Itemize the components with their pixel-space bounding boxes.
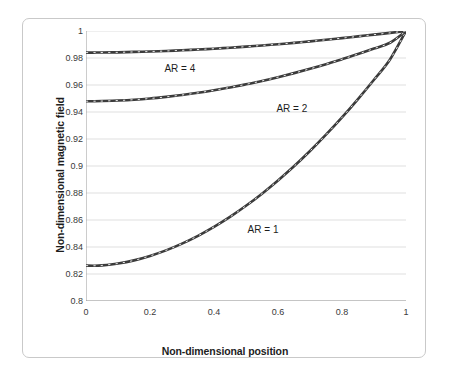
y-axis-tick-labels: 0.80.820.840.860.880.90.920.940.960.981: [45, 31, 83, 301]
chart-frame: Non-dimensional magnetic field 0.80.820.…: [22, 18, 426, 358]
series-line-dash: [86, 31, 406, 53]
y-tick-label: 0.84: [49, 242, 83, 252]
y-tick-label: 0.92: [49, 134, 83, 144]
series-lines: [86, 31, 406, 266]
series-line-base: [86, 31, 406, 101]
y-tick-label: 0.8: [49, 296, 83, 306]
series-annotation: AR = 4: [164, 63, 195, 74]
y-tick-label: 0.96: [49, 80, 83, 90]
x-tick-label: 0.2: [135, 307, 165, 317]
x-axis-title: Non-dimensional position: [23, 345, 427, 357]
y-tick-label: 0.94: [49, 107, 83, 117]
series-line-dash: [86, 31, 406, 266]
series-line-base: [86, 31, 406, 266]
series-annotation: AR = 2: [276, 103, 307, 114]
chart-figure: Non-dimensional magnetic field 0.80.820.…: [0, 0, 450, 374]
y-tick-label: 0.98: [49, 53, 83, 63]
y-tick-label: 0.82: [49, 269, 83, 279]
y-tick-label: 0.9: [49, 161, 83, 171]
x-tick-label: 0: [71, 307, 101, 317]
x-tick-label: 0.6: [263, 307, 293, 317]
y-tick-label: 1: [49, 26, 83, 36]
series-line-dash: [86, 31, 406, 101]
plot-svg: [86, 31, 406, 301]
series-line-base: [86, 31, 406, 53]
x-tick-label: 1: [391, 307, 421, 317]
plot-area: AR = 4AR = 2AR = 1: [86, 31, 406, 301]
x-axis-tick-labels: 00.20.40.60.81: [86, 307, 406, 323]
x-tick-label: 0.4: [199, 307, 229, 317]
y-tick-label: 0.86: [49, 215, 83, 225]
series-annotation: AR = 1: [248, 224, 279, 235]
y-tick-label: 0.88: [49, 188, 83, 198]
x-tick-label: 0.8: [327, 307, 357, 317]
